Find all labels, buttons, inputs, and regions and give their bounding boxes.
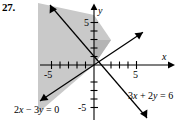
y-tick-label-5: 5 [84, 17, 89, 28]
y-tick-label-minus5: -5 [78, 102, 86, 113]
eq1-rhs: = 0 [44, 104, 60, 115]
line-2x-3y-arrow-upper [135, 32, 144, 39]
coordinate-plane-graph: x y -5 5 5 -5 2x − 3y = 0 3x + 2y = 6 [0, 0, 195, 125]
equation-label-2x-minus-3y: 2x − 3y = 0 [14, 104, 59, 115]
x-tick-label-5: 5 [133, 69, 138, 80]
eq2-coef-b: + 2 [137, 90, 153, 101]
figure-container: 27. [0, 0, 195, 125]
x-axis-label: x [161, 51, 167, 62]
x-axis-arrowhead [168, 61, 175, 68]
region-fill-inner [94, 40, 111, 65]
region-fill-primary [38, 3, 111, 113]
equation-label-3x-plus-2y: 3x + 2y = 6 [128, 90, 173, 101]
eq2-rhs: = 6 [158, 90, 174, 101]
y-axis-label: y [97, 5, 103, 16]
x-tick-label-minus5: -5 [44, 69, 52, 80]
y-axis-arrowhead [91, 4, 98, 11]
eq1-coef-b: − 3 [23, 104, 39, 115]
shaded-solution-region [38, 3, 111, 113]
